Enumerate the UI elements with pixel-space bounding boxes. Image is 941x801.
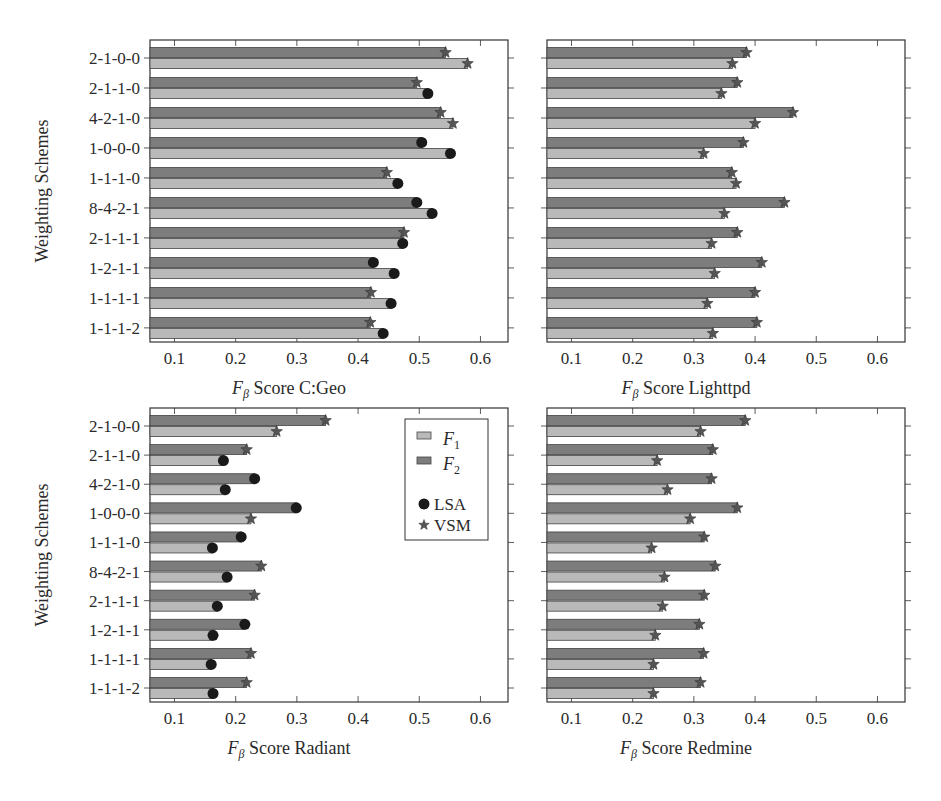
bar-f2	[150, 474, 255, 484]
x-tick-label: 0.4	[744, 709, 766, 728]
bar-f2	[150, 257, 373, 267]
x-tick-label: 0.2	[225, 709, 246, 728]
x-tick-label: 0.4	[744, 349, 766, 368]
bar-f1	[547, 427, 701, 437]
y-tick-label: 2-1-1-0	[89, 446, 140, 465]
x-tick-label: 0.1	[164, 349, 185, 368]
bar-f1	[150, 268, 394, 278]
y-tick-label: 1-2-1-1	[89, 621, 140, 640]
bar-f1	[150, 601, 217, 611]
bar-f2	[547, 619, 699, 629]
lsa-marker	[206, 659, 217, 670]
y-tick-label: 2-1-0-0	[89, 417, 140, 436]
lsa-marker	[392, 178, 403, 189]
bar-f1	[547, 298, 707, 308]
lsa-marker	[207, 542, 218, 553]
bar-f1	[150, 427, 277, 437]
panel-cgeo: 0.10.20.30.40.50.62-1-0-02-1-1-04-2-1-01…	[32, 40, 514, 401]
bar-f2	[150, 287, 371, 297]
figure: 0.10.20.30.40.50.62-1-0-02-1-1-04-2-1-01…	[0, 0, 941, 801]
legend-label: VSM	[434, 516, 471, 535]
x-tick-label: 0.6	[470, 349, 491, 368]
bar-f2	[547, 287, 755, 297]
lsa-marker	[208, 688, 219, 699]
bar-f1	[150, 328, 383, 338]
bar-f1	[150, 456, 223, 466]
bar-f1	[547, 118, 755, 128]
lsa-marker	[368, 257, 379, 268]
bar-f1	[150, 514, 251, 524]
y-tick-label: 1-1-1-2	[89, 679, 140, 698]
bar-f2	[547, 167, 732, 177]
bar-f1	[150, 208, 432, 218]
bar-f2	[547, 416, 745, 426]
lsa-marker	[378, 328, 389, 339]
bar-f1	[150, 572, 227, 582]
bar-f1	[150, 88, 428, 98]
bar-f2	[150, 590, 255, 600]
panel-lighttpd: 0.10.20.30.40.50.6Fβ Score Lighttpd	[541, 40, 911, 401]
bar-f2	[150, 227, 404, 237]
y-tick-label: 2-1-0-0	[89, 49, 140, 68]
bar-f2	[547, 648, 704, 658]
x-axis-label: Fβ Score Redmine	[619, 738, 752, 761]
bar-f2	[150, 77, 417, 87]
x-tick-label: 0.1	[164, 709, 185, 728]
bar-f2	[547, 532, 704, 542]
y-tick-label: 1-0-0-0	[89, 139, 140, 158]
x-tick-label: 0.2	[622, 709, 643, 728]
bar-f2	[547, 227, 737, 237]
bar-f2	[547, 317, 757, 327]
bar-f2	[150, 48, 446, 58]
bar-f2	[547, 107, 793, 117]
bar-f2	[547, 445, 713, 455]
bar-f2	[150, 107, 441, 117]
bar-f1	[150, 689, 213, 699]
lsa-marker	[427, 208, 438, 219]
bar-f1	[547, 572, 664, 582]
bar-f1	[547, 456, 657, 466]
x-tick-label: 0.2	[225, 349, 246, 368]
bar-f1	[547, 178, 736, 188]
bar-f2	[150, 678, 247, 688]
bar-f1	[150, 148, 450, 158]
bar-f2	[547, 137, 743, 147]
y-axis-label: Weighting Schemes	[32, 119, 52, 262]
lsa-marker	[220, 484, 231, 495]
bar-f1	[547, 659, 653, 669]
bar-f2	[547, 503, 737, 513]
panel-radiant: 0.10.20.30.40.50.62-1-0-02-1-1-04-2-1-01…	[32, 408, 514, 761]
bar-f1	[150, 659, 211, 669]
panel-redmine: 0.10.20.30.40.50.6Fβ Score Redmine	[541, 408, 911, 761]
bar-f1	[547, 59, 732, 69]
y-tick-label: 2-1-1-1	[89, 592, 140, 611]
lsa-marker	[445, 148, 456, 159]
y-tick-label: 8-4-2-1	[89, 563, 140, 582]
bar-f2	[150, 197, 417, 207]
x-tick-label: 0.4	[347, 709, 369, 728]
bar-f1	[150, 298, 391, 308]
x-tick-label: 0.6	[867, 709, 888, 728]
x-tick-label: 0.2	[622, 349, 643, 368]
bar-f2	[150, 503, 296, 513]
lsa-marker	[222, 572, 233, 583]
bar-f2	[150, 561, 261, 571]
bar-f2	[547, 77, 737, 87]
y-tick-label: 1-2-1-1	[89, 259, 140, 278]
lsa-marker	[416, 137, 427, 148]
legend-swatch-f1	[417, 432, 431, 439]
x-tick-label: 0.5	[409, 349, 430, 368]
legend-label: LSA	[434, 495, 467, 514]
bar-f2	[150, 137, 422, 147]
bar-f1	[547, 601, 663, 611]
x-tick-label: 0.3	[683, 349, 704, 368]
bar-f1	[547, 630, 655, 640]
bar-f1	[547, 208, 724, 218]
bar-f2	[547, 561, 715, 571]
bar-f1	[547, 485, 668, 495]
lsa-marker	[212, 601, 223, 612]
legend-swatch-f2	[417, 457, 431, 464]
bar-f2	[547, 474, 712, 484]
x-tick-label: 0.3	[286, 709, 307, 728]
x-tick-label: 0.5	[806, 349, 827, 368]
